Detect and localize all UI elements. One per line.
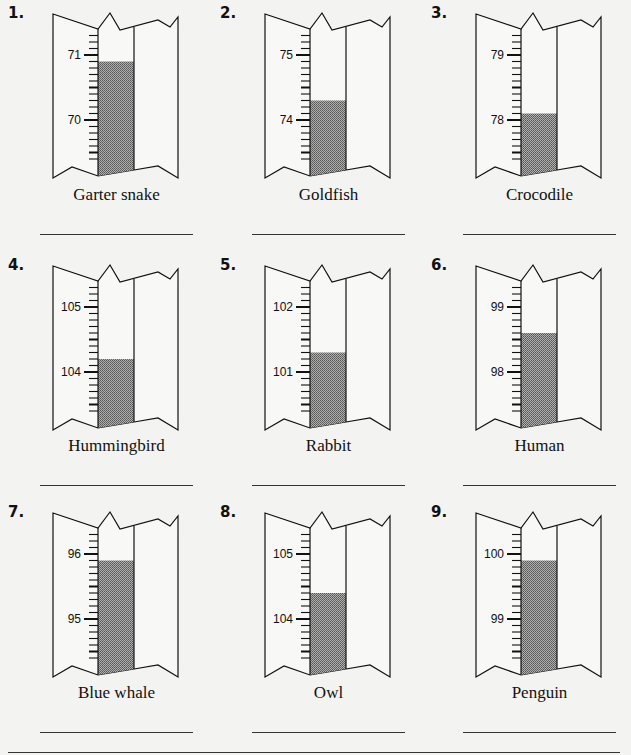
scale-label-upper: 71 — [68, 48, 82, 62]
answer-blank[interactable] — [40, 732, 193, 733]
scale-label-upper: 102 — [273, 300, 293, 314]
scale-label-lower: 95 — [68, 612, 82, 626]
animal-label: Garter snake — [40, 185, 193, 205]
scale-label-lower: 99 — [491, 612, 505, 626]
scale-label-lower: 70 — [68, 113, 82, 127]
answer-blank[interactable] — [463, 485, 616, 486]
thermometer-item-3: 3. 7978 Crocodile — [423, 0, 631, 250]
thermometer-item-9: 9. 10099 Penguin — [423, 499, 631, 749]
scale-label-lower: 78 — [491, 113, 505, 127]
thermometer-drawing: 9998 — [423, 252, 631, 452]
answer-blank[interactable] — [40, 485, 193, 486]
thermometer-drawing: 102101 — [212, 252, 422, 452]
answer-blank[interactable] — [252, 732, 405, 733]
thermometer-item-2: 2. 7574 Goldfish — [212, 0, 422, 250]
answer-blank[interactable] — [252, 485, 405, 486]
thermometer-drawing: 105104 — [212, 499, 422, 699]
scale-label-lower: 104 — [61, 365, 81, 379]
mercury-column — [521, 114, 557, 177]
scale-label-upper: 105 — [273, 547, 293, 561]
page-bottom-rule — [8, 752, 620, 753]
answer-blank[interactable] — [463, 732, 616, 733]
thermometer-item-4: 4. 105104 Hummingbird — [0, 252, 210, 502]
animal-label: Hummingbird — [40, 436, 193, 456]
thermometer-drawing: 7574 — [212, 0, 422, 200]
scale-label-lower: 101 — [273, 365, 293, 379]
mercury-column — [98, 62, 134, 177]
thermometer-drawing: 105104 — [0, 252, 210, 452]
scale-label-upper: 105 — [61, 300, 81, 314]
mercury-column — [310, 353, 346, 429]
mercury-column — [310, 101, 346, 177]
animal-label: Human — [463, 436, 616, 456]
thermometer-drawing: 7978 — [423, 0, 631, 200]
thermometer-drawing: 9695 — [0, 499, 210, 699]
scale-label-lower: 74 — [280, 113, 294, 127]
animal-label: Owl — [252, 683, 405, 703]
scale-label-upper: 100 — [484, 547, 504, 561]
scale-label-upper: 79 — [491, 48, 505, 62]
animal-label: Crocodile — [463, 185, 616, 205]
animal-label: Goldfish — [252, 185, 405, 205]
thermometer-item-1: 1. 7170 Garter snake — [0, 0, 210, 250]
thermometer-item-6: 6. 9998 Human — [423, 252, 631, 502]
thermometer-item-7: 7. 9695 Blue whale — [0, 499, 210, 749]
scale-label-upper: 96 — [68, 547, 82, 561]
animal-label: Blue whale — [40, 683, 193, 703]
mercury-column — [98, 561, 134, 676]
mercury-column — [98, 359, 134, 428]
mercury-column — [521, 333, 557, 428]
scale-label-lower: 104 — [273, 612, 293, 626]
thermometer-drawing: 10099 — [423, 499, 631, 699]
scale-label-upper: 99 — [491, 300, 505, 314]
thermometer-item-5: 5. 102101 Rabbit — [212, 252, 422, 502]
answer-blank[interactable] — [252, 234, 405, 235]
thermometer-item-8: 8. 105104 Owl — [212, 499, 422, 749]
animal-label: Penguin — [463, 683, 616, 703]
mercury-column — [310, 593, 346, 675]
thermometer-drawing: 7170 — [0, 0, 210, 200]
answer-blank[interactable] — [40, 234, 193, 235]
answer-blank[interactable] — [463, 234, 616, 235]
mercury-column — [521, 561, 557, 676]
scale-label-upper: 75 — [280, 48, 294, 62]
scale-label-lower: 98 — [491, 365, 505, 379]
animal-label: Rabbit — [252, 436, 405, 456]
